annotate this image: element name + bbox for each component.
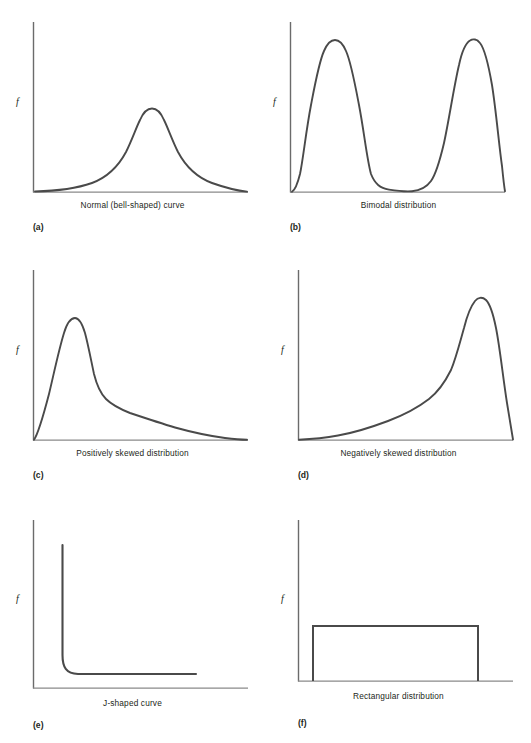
y-axis-label: f <box>16 96 20 107</box>
panel-f-plot: f <box>266 495 531 700</box>
panel-d: f Negatively skewed distribution (d) <box>266 248 531 496</box>
figure-grid: f Normal (bell-shaped) curve (a) f Bimod… <box>0 0 531 743</box>
panel-a: f Normal (bell-shaped) curve (a) <box>0 0 265 248</box>
panel-e-caption: J-shaped curve <box>0 698 265 708</box>
panel-d-caption: Negatively skewed distribution <box>266 448 531 458</box>
panel-c-letter: (c) <box>33 470 44 480</box>
panel-a-caption: Normal (bell-shaped) curve <box>0 200 265 210</box>
y-axis-label: f <box>16 593 20 604</box>
j-shaped-curve-chart: f <box>0 495 265 700</box>
panel-f: f Rectangular distribution (f) <box>266 495 531 743</box>
panel-e-plot: f <box>0 495 265 700</box>
panel-f-letter: (f) <box>298 718 307 728</box>
panel-a-letter: (a) <box>33 222 44 232</box>
negative-skew-chart: f <box>266 248 531 453</box>
panel-b-caption: Bimodal distribution <box>266 200 531 210</box>
rectangle-path <box>313 626 478 681</box>
panel-c-caption: Positively skewed distribution <box>0 448 265 458</box>
y-axis-label: f <box>16 344 20 355</box>
panel-d-plot: f <box>266 248 531 453</box>
bimodal-curve-chart: f <box>266 0 531 205</box>
y-axis-label: f <box>281 344 285 355</box>
panel-c-plot: f <box>0 248 265 453</box>
bimodal-curve-path <box>292 39 505 191</box>
y-axis-label: f <box>273 96 277 107</box>
panel-a-plot: f <box>0 0 265 205</box>
panel-b-plot: f <box>266 0 531 205</box>
normal-curve-path <box>35 109 247 192</box>
panel-b: f Bimodal distribution (b) <box>266 0 531 248</box>
panel-b-letter: (b) <box>290 222 301 232</box>
y-axis-label: f <box>281 593 285 604</box>
panel-e-letter: (e) <box>33 720 44 730</box>
negative-skew-path <box>299 298 513 440</box>
panel-d-letter: (d) <box>298 470 309 480</box>
positive-skew-chart: f <box>0 248 265 453</box>
normal-curve-chart: f <box>0 0 265 205</box>
panel-e: f J-shaped curve (e) <box>0 495 265 743</box>
j-shaped-curve-path <box>63 545 197 674</box>
panel-f-caption: Rectangular distribution <box>266 691 531 701</box>
panel-c: f Positively skewed distribution (c) <box>0 248 265 496</box>
positive-skew-path <box>34 318 247 440</box>
rectangular-distribution-chart: f <box>266 495 531 700</box>
